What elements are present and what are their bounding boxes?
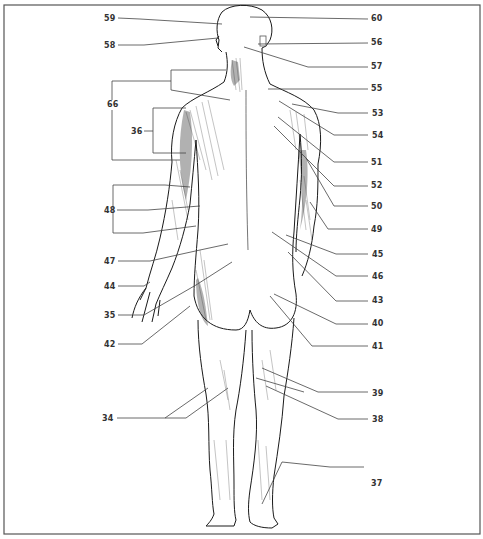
label-46: 46 — [372, 273, 384, 281]
label-43: 43 — [372, 297, 384, 305]
figure-frame — [4, 5, 480, 534]
label-58: 58 — [104, 42, 116, 50]
label-56: 56 — [371, 39, 383, 47]
label-59: 59 — [104, 15, 116, 23]
label-54: 54 — [372, 132, 384, 140]
label-36: 36 — [131, 128, 143, 136]
label-45: 45 — [372, 251, 384, 259]
label-41: 41 — [372, 343, 384, 351]
label-53: 53 — [372, 110, 384, 118]
label-47: 47 — [104, 258, 116, 266]
figure-illustration — [0, 0, 483, 539]
label-40: 40 — [372, 320, 384, 328]
anatomy-figure: 59 58 66 36 48 47 44 35 42 34 60 56 57 5… — [0, 0, 483, 539]
label-49: 49 — [371, 226, 383, 234]
label-50: 50 — [371, 203, 383, 211]
label-66: 66 — [107, 101, 119, 109]
label-48: 48 — [104, 207, 116, 215]
label-44: 44 — [104, 283, 116, 291]
label-34: 34 — [102, 415, 114, 423]
label-37: 37 — [371, 480, 383, 488]
body-shading — [172, 58, 312, 500]
label-55: 55 — [371, 85, 383, 93]
label-51: 51 — [371, 159, 383, 167]
label-42: 42 — [104, 341, 116, 349]
label-60: 60 — [371, 15, 383, 23]
label-57: 57 — [371, 63, 383, 71]
body-figure — [132, 5, 321, 528]
label-39: 39 — [372, 390, 384, 398]
label-38: 38 — [372, 416, 384, 424]
label-52: 52 — [371, 182, 383, 190]
label-35: 35 — [104, 312, 116, 320]
